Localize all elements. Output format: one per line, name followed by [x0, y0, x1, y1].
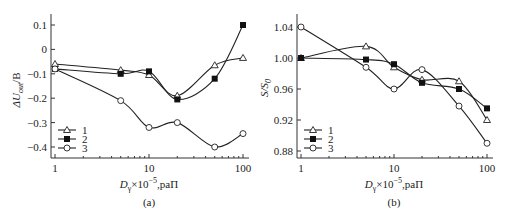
triangle-marker	[240, 54, 247, 60]
circle-marker	[363, 64, 369, 70]
series-1	[298, 43, 491, 123]
y-tick-label: 0.1	[33, 19, 47, 31]
figure: 0.10−0.1−0.2−0.3−0.4110100Dγ×10−5,paП(a)…	[0, 0, 505, 213]
circle-marker	[52, 66, 58, 72]
square-marker	[212, 76, 218, 82]
circle-marker	[64, 145, 70, 151]
y-tick-label: 0	[42, 43, 48, 55]
legend-label: 3	[82, 142, 88, 154]
circle-marker	[484, 140, 490, 146]
triangle-marker	[211, 62, 218, 68]
series-3	[298, 24, 490, 146]
x-tick-label: 1	[298, 162, 304, 174]
legend: 123	[58, 124, 88, 154]
circle-marker	[212, 144, 218, 150]
legend: 123	[304, 124, 334, 154]
y-tick-label: −0.2	[27, 92, 47, 104]
y-tick-label: 0.88	[274, 145, 294, 157]
chart-panel-a: 0.10−0.1−0.2−0.3−0.4110100Dγ×10−5,paП(a)…	[10, 14, 252, 209]
square-marker	[484, 105, 490, 111]
x-tick-label: 100	[479, 162, 496, 174]
y-tick-label: −0.3	[27, 117, 47, 129]
triangle-marker	[456, 78, 463, 84]
legend-item-3: 3	[58, 142, 88, 154]
y-tick-label: 1.00	[274, 52, 294, 64]
square-marker	[146, 68, 152, 74]
series-2	[52, 22, 246, 102]
square-marker	[391, 61, 397, 67]
square-marker	[240, 22, 246, 28]
y-tick-label: −0.4	[27, 141, 47, 153]
circle-marker	[391, 86, 397, 92]
panel-label: (b)	[388, 196, 401, 209]
y-tick-label: 0.96	[274, 83, 294, 95]
x-tick-label: 1	[52, 162, 58, 174]
circle-marker	[456, 103, 462, 109]
triangle-marker	[484, 117, 491, 123]
legend-item-3: 3	[304, 142, 334, 154]
x-tick-label: 100	[235, 162, 252, 174]
square-marker	[174, 96, 180, 102]
circle-marker	[419, 67, 425, 73]
circle-marker	[298, 24, 304, 30]
x-tick-label: 10	[144, 162, 156, 174]
y-tick-label: −0.1	[27, 68, 47, 80]
chart-panel-b: 1.041.000.960.920.88110100Dγ×10−5,paП(b)…	[258, 14, 496, 209]
circle-marker	[240, 131, 246, 137]
x-tick-label: 10	[389, 162, 401, 174]
chart-canvas: 0.10−0.1−0.2−0.3−0.4110100Dγ×10−5,paП(a)…	[0, 0, 505, 213]
y-tick-label: 1.04	[274, 21, 294, 33]
x-axis-title: Dγ×10−5,paП	[119, 176, 178, 193]
circle-marker	[310, 145, 316, 151]
y-axis-title: ΔUout/B	[10, 72, 25, 108]
circle-marker	[118, 98, 124, 104]
square-marker	[298, 55, 304, 61]
square-marker	[363, 57, 369, 63]
square-marker	[310, 136, 316, 142]
square-marker	[419, 80, 425, 86]
x-axis-title: Dγ×10−5,paП	[364, 176, 423, 193]
square-marker	[118, 71, 124, 77]
y-axis-title: S/S0	[258, 79, 273, 97]
circle-marker	[146, 124, 152, 130]
square-marker	[456, 86, 462, 92]
y-tick-label: 0.92	[274, 114, 293, 126]
legend-label: 3	[328, 142, 334, 154]
square-marker	[64, 136, 70, 142]
panel-label: (a)	[143, 196, 156, 209]
circle-marker	[174, 120, 180, 126]
